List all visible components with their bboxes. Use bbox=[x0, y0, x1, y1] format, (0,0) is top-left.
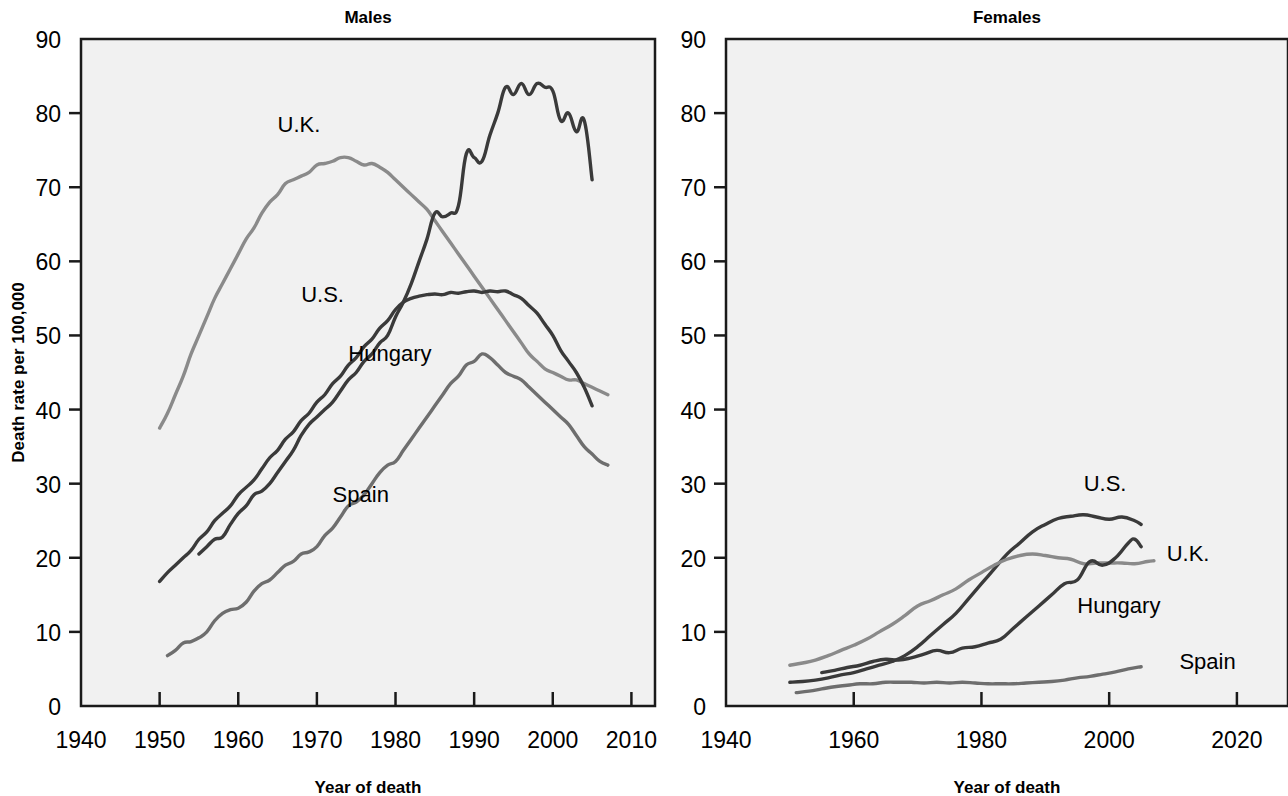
panel-title: Females bbox=[973, 8, 1041, 27]
y-tick-label: 90 bbox=[35, 27, 61, 53]
y-axis-label: Death rate per 100,000 bbox=[9, 282, 28, 463]
x-axis-label: Year of death bbox=[954, 778, 1061, 796]
y-tick-label: 30 bbox=[680, 472, 706, 498]
series-label-spain: Spain bbox=[1179, 649, 1235, 674]
series-label-spain: Spain bbox=[333, 482, 389, 507]
dual-panel-line-chart-figure: Males01020304050607080901940195019601970… bbox=[0, 0, 1288, 796]
plot-area-background bbox=[81, 39, 655, 706]
x-tick-label: 1950 bbox=[134, 727, 185, 753]
panel-males: Males01020304050607080901940195019601970… bbox=[9, 8, 657, 796]
chart-canvas: Males01020304050607080901940195019601970… bbox=[0, 0, 1288, 796]
x-axis-label: Year of death bbox=[315, 778, 422, 796]
x-tick-label: 1940 bbox=[700, 727, 751, 753]
x-tick-label: 1980 bbox=[370, 727, 421, 753]
y-tick-label: 50 bbox=[680, 323, 706, 349]
y-tick-label: 30 bbox=[35, 472, 61, 498]
series-label-hungary: Hungary bbox=[1077, 593, 1160, 618]
y-tick-label: 60 bbox=[35, 249, 61, 275]
x-tick-label: 1980 bbox=[956, 727, 1007, 753]
x-tick-label: 1990 bbox=[449, 727, 500, 753]
x-tick-label: 2010 bbox=[606, 727, 657, 753]
y-tick-label: 10 bbox=[35, 620, 61, 646]
y-tick-label: 0 bbox=[48, 694, 61, 720]
x-tick-label: 2000 bbox=[527, 727, 578, 753]
plot-area-background bbox=[726, 39, 1288, 706]
x-tick-label: 1960 bbox=[828, 727, 879, 753]
x-tick-label: 1970 bbox=[291, 727, 342, 753]
x-tick-label: 2020 bbox=[1211, 727, 1262, 753]
series-label-hungary: Hungary bbox=[348, 341, 431, 366]
series-label-uk: U.K. bbox=[1167, 541, 1210, 566]
y-tick-label: 90 bbox=[680, 27, 706, 53]
series-label-us: U.S. bbox=[301, 282, 344, 307]
x-tick-label: 2000 bbox=[1084, 727, 1135, 753]
y-tick-label: 50 bbox=[35, 323, 61, 349]
y-tick-label: 70 bbox=[680, 175, 706, 201]
y-tick-label: 70 bbox=[35, 175, 61, 201]
y-tick-label: 80 bbox=[35, 101, 61, 127]
y-tick-label: 40 bbox=[35, 398, 61, 424]
x-tick-label: 1960 bbox=[213, 727, 264, 753]
series-label-us: U.S. bbox=[1084, 471, 1127, 496]
y-tick-label: 80 bbox=[680, 101, 706, 127]
y-tick-label: 60 bbox=[680, 249, 706, 275]
y-tick-label: 10 bbox=[680, 620, 706, 646]
y-tick-label: 0 bbox=[693, 694, 706, 720]
y-tick-label: 40 bbox=[680, 398, 706, 424]
panel-females: Females010203040506070809019401960198020… bbox=[680, 8, 1288, 796]
y-tick-label: 20 bbox=[35, 546, 61, 572]
y-tick-label: 20 bbox=[680, 546, 706, 572]
series-label-uk: U.K. bbox=[278, 112, 321, 137]
x-tick-label: 1940 bbox=[55, 727, 106, 753]
panel-title: Males bbox=[344, 8, 391, 27]
